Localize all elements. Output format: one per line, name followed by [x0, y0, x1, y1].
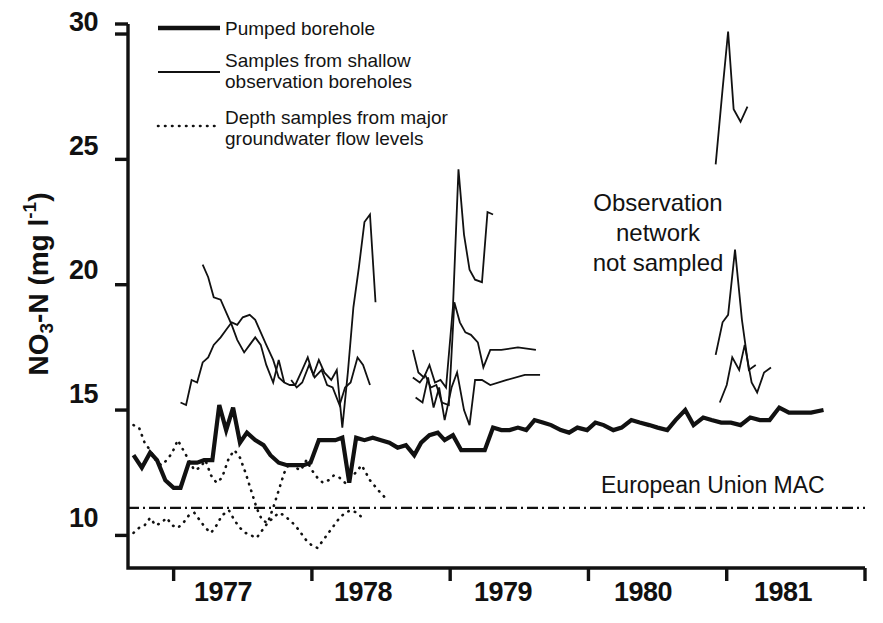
y-tick-label-10: 10: [28, 503, 98, 534]
x-tick-label-1980: 1980: [583, 577, 703, 608]
y-tick-label-30: 30: [28, 7, 98, 38]
annotation-european-union-mac: European Union MAC: [601, 472, 871, 498]
x-tick-label-1981: 1981: [723, 577, 843, 608]
x-tick-label-1979: 1979: [443, 577, 563, 608]
y-axis-title-post: ): [23, 192, 54, 201]
legend-label-pumped-borehole: Pumped borehole: [225, 18, 375, 39]
chart-plot-area: [0, 0, 883, 623]
legend-label-depth-samples: Depth samples from major groundwater flo…: [225, 107, 448, 149]
x-tick-label-1977: 1977: [163, 577, 283, 608]
x-tick-label-1978: 1978: [303, 577, 423, 608]
y-axis-title-sup: -1: [19, 202, 40, 219]
legend-label-shallow-observation-boreholes: Samples from shallow observation borehol…: [225, 50, 412, 92]
annotation-observation-network: Observation network not sampled: [533, 188, 783, 278]
y-axis-title: NO3-N (mg l-1): [23, 119, 55, 449]
legend-swatch-group: [158, 28, 220, 126]
y-axis-title-sub: 3: [36, 323, 57, 334]
y-axis-title-mid: -N (mg l: [23, 219, 54, 323]
chart-figure: 30 25 20 15 10 1977 1978 1979 1980 1981 …: [0, 0, 883, 623]
y-axis-title-pre: NO: [23, 334, 54, 376]
